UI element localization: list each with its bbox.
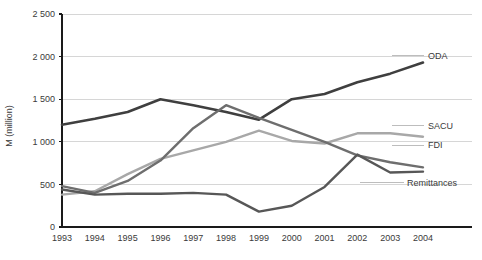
series-label-remittances: Remittances <box>407 178 458 188</box>
x-tick-label: 1993 <box>52 233 72 243</box>
series-inline-labels: ODASACUFDIRemittances <box>360 51 458 188</box>
y-tick-label: 500 <box>40 180 55 190</box>
x-tick-label: 2004 <box>413 233 433 243</box>
x-tick-label: 1997 <box>183 233 203 243</box>
x-axis-tick-labels: 1993199419951996199719981999200020012002… <box>52 233 433 243</box>
x-tick-label: 1998 <box>216 233 236 243</box>
y-tick-label: 2 000 <box>32 52 55 62</box>
chart-canvas: 05001 0001 5002 0002 500 199319941995199… <box>0 0 482 260</box>
x-tick-label: 1994 <box>85 233 105 243</box>
gridlines <box>62 14 472 184</box>
x-tick-label: 1995 <box>118 233 138 243</box>
y-tick-label: 1 500 <box>32 94 55 104</box>
y-axis-title: M (million) <box>4 105 14 147</box>
data-series-group <box>62 63 423 212</box>
line-chart: 05001 0001 5002 0002 500 199319941995199… <box>0 0 482 260</box>
y-tick-label: 0 <box>50 222 55 232</box>
x-tick-label: 2003 <box>380 233 400 243</box>
x-tick-label: 2000 <box>282 233 302 243</box>
y-tick-label: 1 000 <box>32 137 55 147</box>
series-label-oda: ODA <box>428 51 448 61</box>
y-axis-title-text: M (million) <box>4 105 14 147</box>
series-line-oda <box>62 63 423 125</box>
x-tick-label: 1996 <box>150 233 170 243</box>
x-tick-label: 2002 <box>347 233 367 243</box>
y-axis-tick-labels: 05001 0001 5002 0002 500 <box>32 9 55 232</box>
series-label-fdi: FDI <box>428 140 443 150</box>
x-tick-label: 1999 <box>249 233 269 243</box>
series-label-sacu: SACU <box>428 121 453 131</box>
x-tick-label: 2001 <box>315 233 335 243</box>
y-tick-label: 2 500 <box>32 9 55 19</box>
